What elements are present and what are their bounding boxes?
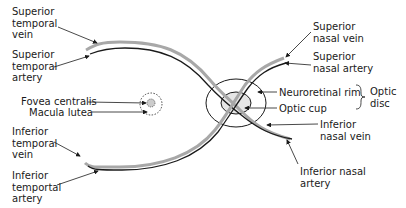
- label-superior-temporal-vein: Superior temporal vein: [12, 6, 57, 41]
- leader-sup-temp-artery: [54, 56, 89, 67]
- leader-sup-nasal-artery: [285, 63, 311, 65]
- fovea-centralis: [147, 99, 155, 107]
- label-optic-cup: Optic cup: [279, 103, 327, 115]
- label-inferior-temporal-vein: Inferior temporal vein: [12, 126, 57, 161]
- leader-inf-nasal-vein: [267, 124, 318, 125]
- inferior-temporal-vein: [85, 58, 284, 167]
- label-neuroretinal-rim: Neuroretinal rim: [279, 87, 361, 99]
- leader-inf-temp-artery: [57, 171, 98, 185]
- label-superior-temporal-artery: Superior temporal artery: [12, 49, 57, 84]
- superior-temporal-vein: [86, 42, 290, 139]
- leader-sup-nasal-vein: [286, 32, 311, 57]
- label-inferior-temporal-artery: Inferior temportal artery: [12, 170, 61, 205]
- label-fovea-centralis: Fovea centralis: [21, 96, 97, 108]
- leader-inf-temp-vein: [54, 142, 80, 156]
- label-optic-disc: Optic disc: [370, 86, 396, 109]
- label-inferior-nasal-artery: Inferior nasal artery: [300, 166, 366, 189]
- leader-sup-temp-vein: [58, 27, 97, 43]
- label-inferior-nasal-vein: Inferior nasal vein: [320, 119, 371, 142]
- label-superior-nasal-vein: Superior nasal vein: [313, 21, 364, 44]
- leader-inf-nasal-artery: [287, 140, 298, 164]
- label-superior-nasal-artery: Superior nasal artery: [313, 51, 373, 74]
- label-macula-lutea: Macula lutea: [29, 107, 93, 119]
